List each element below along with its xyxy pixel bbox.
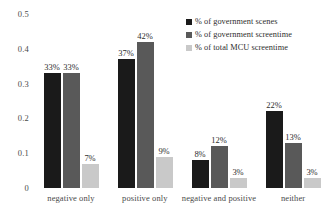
y-axis-tick-label: 0.4 <box>18 44 29 54</box>
bar[interactable] <box>266 111 283 188</box>
bar[interactable] <box>211 146 228 188</box>
legend-label: % of total MCU screentime <box>195 44 288 52</box>
bar-value-label: 3% <box>306 167 317 177</box>
y-axis-tick-label: 0.2 <box>18 113 29 123</box>
x-axis-category-label: negative only <box>34 190 108 212</box>
legend-item[interactable]: % of government screentime <box>186 31 332 39</box>
chart-legend: % of government scenes% of government sc… <box>186 18 332 56</box>
bar-value-label: 12% <box>211 135 226 145</box>
y-axis-tick-label: 0 <box>25 183 29 193</box>
x-axis-category-label: positive only <box>108 190 182 212</box>
bar-slot: 9% <box>156 14 173 188</box>
bar[interactable] <box>137 42 154 188</box>
bar-group: 33%33%7% <box>34 14 108 188</box>
bar[interactable] <box>44 73 61 188</box>
bar[interactable] <box>82 164 99 188</box>
bar[interactable] <box>63 73 80 188</box>
bar[interactable] <box>230 178 247 188</box>
bar-slot: 33% <box>63 14 80 188</box>
legend-item[interactable]: % of total MCU screentime <box>186 44 332 52</box>
bar-value-label: 9% <box>158 146 169 156</box>
bar-value-label: 42% <box>137 31 152 41</box>
x-axis: negative onlypositive onlynegative and p… <box>34 190 330 212</box>
y-axis-tick-label: 0.1 <box>18 148 29 158</box>
bar-value-label: 3% <box>232 167 243 177</box>
bar-value-label: 22% <box>266 100 281 110</box>
legend-label: % of government scenes <box>195 18 277 26</box>
grouped-bar-chart: 00.10.20.30.40.5 33%33%7%37%42%9%8%12%3%… <box>0 0 332 216</box>
bar-value-label: 7% <box>84 153 95 163</box>
y-axis-tick-label: 0.3 <box>18 79 29 89</box>
bar-slot: 7% <box>82 14 99 188</box>
bar-value-label: 37% <box>118 48 133 58</box>
legend-item[interactable]: % of government scenes <box>186 18 332 26</box>
bar[interactable] <box>192 160 209 188</box>
bar-slot: 33% <box>44 14 61 188</box>
legend-label: % of government screentime <box>195 31 292 39</box>
x-axis-category-label: neither <box>256 190 330 212</box>
bar-slot: 37% <box>118 14 135 188</box>
y-axis: 00.10.20.30.40.5 <box>0 0 34 216</box>
bar[interactable] <box>156 157 173 188</box>
y-axis-tick-label: 0.5 <box>18 9 29 19</box>
legend-swatch-icon <box>186 19 192 25</box>
bar-value-label: 8% <box>194 149 205 159</box>
bar-value-label: 33% <box>44 62 59 72</box>
bar-value-label: 13% <box>285 132 300 142</box>
legend-swatch-icon <box>186 45 192 51</box>
bar-group: 37%42%9% <box>108 14 182 188</box>
bar[interactable] <box>118 59 135 188</box>
bar[interactable] <box>285 143 302 188</box>
bar-slot: 42% <box>137 14 154 188</box>
bar-value-label: 33% <box>63 62 78 72</box>
bar[interactable] <box>304 178 321 188</box>
legend-swatch-icon <box>186 32 192 38</box>
x-axis-category-label: negative and positive <box>182 190 256 212</box>
